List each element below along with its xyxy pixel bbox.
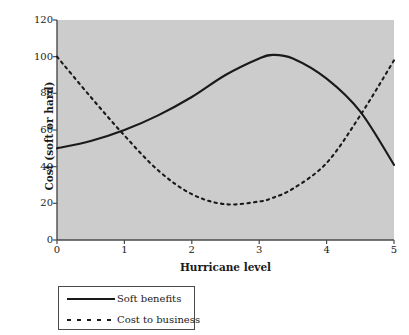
y-tick-label-120: 120 (13, 15, 53, 25)
x-tick-label-3: 3 (244, 245, 274, 255)
y-axis-title: Cost (soft or hard) (43, 26, 55, 246)
x-tick-label-1: 1 (109, 245, 139, 255)
x-tick-label-5: 5 (379, 245, 409, 255)
legend-swatch-solid (65, 291, 117, 305)
chart-legend: Soft benefits Cost to business (58, 286, 195, 330)
x-axis-title: Hurricane level (57, 261, 394, 273)
legend-item-soft-benefits: Soft benefits (59, 287, 194, 309)
legend-item-cost-to-business: Cost to business (59, 308, 194, 330)
x-tick-label-4: 4 (312, 245, 342, 255)
legend-label-soft-benefits: Soft benefits (117, 293, 181, 304)
x-tick-label-0: 0 (42, 245, 72, 255)
x-tick-label-2: 2 (177, 245, 207, 255)
legend-swatch-dashed (65, 312, 117, 326)
chart-canvas (0, 0, 409, 335)
plot-area-background (57, 20, 394, 240)
legend-label-cost-to-business: Cost to business (117, 314, 200, 325)
chart-figure: 020406080100120 012345 Cost (soft or har… (0, 0, 409, 335)
